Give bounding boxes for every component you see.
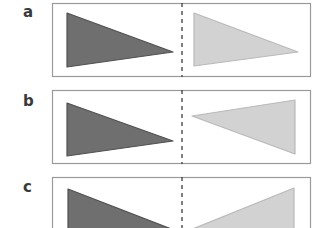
panel-b [53, 90, 311, 164]
transformations-diagram [0, 0, 333, 228]
panel-c [53, 177, 311, 228]
panel-a [53, 3, 311, 77]
